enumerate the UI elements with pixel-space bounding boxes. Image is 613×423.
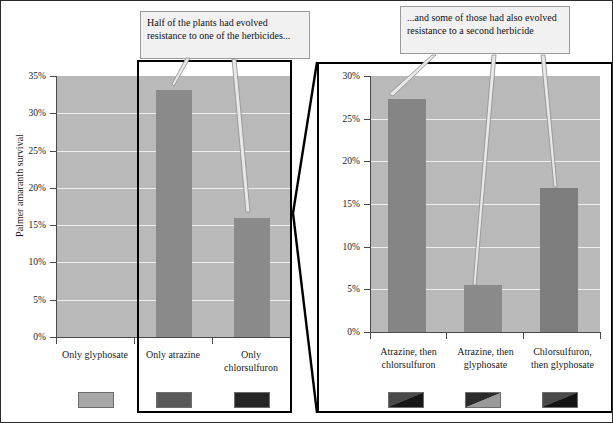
bar-atrazine-then-glyphosate bbox=[464, 285, 502, 332]
right-y-axis bbox=[370, 76, 371, 333]
y-tick-label: 5% bbox=[326, 284, 360, 294]
y-tick-label: 15% bbox=[12, 220, 46, 230]
x-tick bbox=[523, 333, 524, 339]
x-tick bbox=[600, 333, 601, 339]
zoom-line-bottom bbox=[293, 213, 317, 413]
y-tick bbox=[50, 225, 56, 226]
y-tick-label: 35% bbox=[12, 71, 46, 81]
x-tick bbox=[56, 338, 57, 344]
x-tick bbox=[370, 333, 371, 339]
y-tick-label: 15% bbox=[326, 199, 360, 209]
x-label-only-atrazine: Only atrazine bbox=[136, 349, 210, 362]
y-tick-label: 30% bbox=[326, 71, 360, 81]
y-tick-label: 10% bbox=[326, 242, 360, 252]
bar-only-atrazine bbox=[156, 90, 192, 337]
y-tick bbox=[364, 161, 370, 162]
x-label-only-glyphosate: Only glyphosate bbox=[58, 349, 132, 362]
left-x-axis bbox=[56, 337, 291, 338]
bar-atrazine-then-chlorsulfuron bbox=[388, 99, 426, 332]
y-tick bbox=[364, 204, 370, 205]
swatch-only-glyphosate bbox=[78, 392, 114, 408]
y-tick bbox=[50, 151, 56, 152]
left-y-axis bbox=[56, 76, 57, 338]
y-tick-label: 25% bbox=[12, 146, 46, 156]
x-tick bbox=[134, 338, 135, 344]
swatch-only-atrazine bbox=[156, 392, 192, 408]
right-callout-box: ...and some of those had also evolved re… bbox=[400, 6, 570, 54]
x-tick bbox=[212, 338, 213, 344]
swatch-only-chlorsulfuron bbox=[234, 392, 270, 408]
x-tick bbox=[446, 333, 447, 339]
y-tick bbox=[50, 188, 56, 189]
y-tick bbox=[364, 76, 370, 77]
y-tick bbox=[50, 300, 56, 301]
y-tick-label: 5% bbox=[12, 295, 46, 305]
swatch-chlorsulfuron-then-glyphosate bbox=[542, 392, 578, 408]
x-label-chlorsulfuron-then-glyphosate: Chlorsulfuron, then glyphosate bbox=[526, 346, 599, 371]
y-tick-label: 10% bbox=[12, 257, 46, 267]
right-x-axis bbox=[370, 332, 601, 333]
y-tick-label: 20% bbox=[12, 183, 46, 193]
left-plot-area bbox=[57, 76, 290, 337]
y-tick-label: 20% bbox=[326, 156, 360, 166]
zoom-line-top bbox=[293, 62, 317, 213]
swatch-atrazine-then-chlorsulfuron bbox=[388, 392, 424, 408]
figure-canvas: Palmer amaranth survival 35% 30% 25% 20%… bbox=[0, 0, 613, 423]
y-tick bbox=[364, 289, 370, 290]
x-label-only-chlorsulfuron: Only chlorsulfuron bbox=[214, 349, 288, 374]
x-label-atrazine-then-chlorsulfuron: Atrazine, then chlorsulfuron bbox=[372, 346, 445, 371]
x-tick bbox=[290, 338, 291, 344]
x-label-atrazine-then-glyphosate: Atrazine, then glyphosate bbox=[449, 346, 522, 371]
y-tick bbox=[364, 119, 370, 120]
bar-chlorsulfuron-then-glyphosate bbox=[540, 188, 578, 332]
y-tick bbox=[50, 113, 56, 114]
swatch-atrazine-then-glyphosate bbox=[465, 392, 501, 408]
bar-only-chlorsulfuron bbox=[234, 218, 270, 337]
y-tick-label: 30% bbox=[12, 108, 46, 118]
y-tick bbox=[50, 76, 56, 77]
y-tick bbox=[50, 262, 56, 263]
y-tick-label: 0% bbox=[326, 327, 360, 337]
right-plot-area bbox=[371, 76, 600, 332]
left-callout-box: Half of the plants had evolved resistanc… bbox=[140, 11, 310, 59]
y-tick-label: 25% bbox=[326, 114, 360, 124]
y-tick-label: 0% bbox=[12, 332, 46, 342]
y-tick bbox=[364, 247, 370, 248]
